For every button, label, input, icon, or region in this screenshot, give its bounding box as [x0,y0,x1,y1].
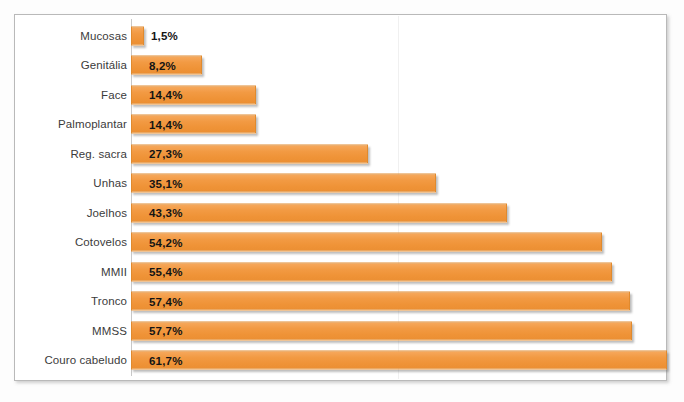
bar-track: 61,7% [131,351,666,370]
bar [131,292,630,311]
category-label: MMSS [15,325,127,337]
category-label: Couro cabeludo [15,354,127,366]
bar-track: 57,4% [131,292,666,311]
bar-row: Reg. sacra27,3% [15,139,666,169]
bar [131,262,612,281]
bar-track: 35,1% [131,174,666,193]
bar-value-label: 57,4% [149,295,183,307]
bar [131,203,507,222]
category-label: Face [15,89,127,101]
bar-value-label: 8,2% [149,59,176,71]
bar-chart-figure: Mucosas1,5%Genitália8,2%Face14,4%Palmopl… [0,0,684,402]
bar-track: 27,3% [131,144,666,163]
bar-value-label: 55,4% [149,266,183,278]
bar-row: Tronco57,4% [15,287,666,317]
bar-track: 8,2% [131,56,666,75]
bar-value-label: 54,2% [149,236,183,248]
bar-track: 54,2% [131,233,666,252]
bar-track: 1,5% [131,26,666,45]
category-label: Tronco [15,295,127,307]
bar-value-label: 61,7% [149,354,183,366]
bar-row: MMII55,4% [15,257,666,287]
bar-track: 14,4% [131,85,666,104]
bar-value-label: 35,1% [149,177,183,189]
bar-value-label: 1,5% [151,30,178,42]
bar-value-label: 14,4% [149,89,183,101]
bar [131,26,144,45]
chart-frame: Mucosas1,5%Genitália8,2%Face14,4%Palmopl… [14,14,667,381]
bar-row: MMSS57,7% [15,316,666,346]
bar-row: Mucosas1,5% [15,21,666,51]
category-label: Cotovelos [15,236,127,248]
bar-value-label: 27,3% [149,148,183,160]
bar-row: Joelhos43,3% [15,198,666,228]
category-label: Unhas [15,177,127,189]
bar-value-label: 57,7% [149,325,183,337]
bar [131,321,632,340]
bar-value-label: 14,4% [149,118,183,130]
bar-row: Genitália8,2% [15,51,666,81]
bar-value-label: 43,3% [149,207,183,219]
bar-row: Palmoplantar14,4% [15,110,666,140]
category-label: MMII [15,266,127,278]
bar [131,233,602,252]
category-label: Mucosas [15,30,127,42]
bar-row: Couro cabeludo61,7% [15,346,666,376]
bar-row: Face14,4% [15,80,666,110]
category-label: Reg. sacra [15,148,127,160]
bar-track: 57,7% [131,321,666,340]
plot-area: Mucosas1,5%Genitália8,2%Face14,4%Palmopl… [15,15,666,380]
bar-row: Unhas35,1% [15,169,666,199]
bar-track: 43,3% [131,203,666,222]
bar-row: Cotovelos54,2% [15,228,666,258]
bar [131,351,667,370]
category-label: Genitália [15,59,127,71]
bar-track: 55,4% [131,262,666,281]
category-label: Palmoplantar [15,118,127,130]
bar-track: 14,4% [131,115,666,134]
category-label: Joelhos [15,207,127,219]
